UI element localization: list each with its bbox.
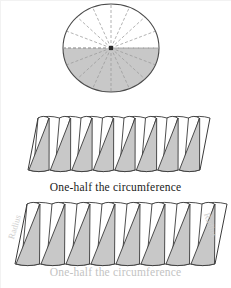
caption-one-half-circumference-bottom: One-half the circumference <box>0 266 231 278</box>
rearranged-wedges-large <box>15 202 227 265</box>
figure-page: One-half the circumference Radius Radius… <box>0 0 231 288</box>
rearranged-wedges-large-figure <box>0 0 231 288</box>
